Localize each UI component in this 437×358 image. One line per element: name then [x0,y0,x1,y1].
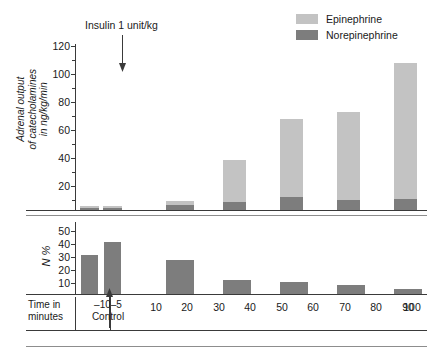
bar-seg-norepinephrine [337,200,360,210]
bar-bottom-minus5 [104,242,121,294]
time-axis-caption: Time in minutes [28,299,74,323]
legend-item-norepinephrine: Norepinephrine [296,28,398,42]
bar-seg-epinephrine [223,160,246,202]
time-axis-table: Time in minutes –10 –5 Control 10 20 30 … [26,297,427,330]
y-tick-label-20: 20 [44,180,70,192]
n-tick-label-30: 30 [44,251,70,263]
y-axis-label-line-2: of catecholamines [26,49,38,169]
y-tick-label-100: 100 [44,68,70,80]
bar-seg-epinephrine [337,112,360,200]
bar-bottom-80 [337,285,365,294]
top-panel-baseline [26,210,427,211]
top-panel-rule-below [26,215,427,216]
bar-seg-epinephrine [394,63,417,199]
x-tick-label-10: 10 [143,301,169,313]
bar-bottom-20 [166,260,194,294]
bar-top-100 [394,63,417,210]
x-tick-label-20: 20 [174,301,200,313]
bar-top-40 [223,160,246,210]
bar-top-60 [280,119,303,210]
n-tick-label-50: 50 [44,225,70,237]
y-tick-label-40: 40 [44,152,70,164]
bottom-panel-baseline [26,294,427,295]
bar-seg-epinephrine [166,201,194,205]
bar-seg-norepinephrine [103,208,122,210]
figure-bottom-rule [26,346,427,347]
bar-seg-norepinephrine [166,205,194,210]
legend-swatch-epinephrine [296,14,318,24]
x-tick-label-70: 70 [332,301,358,313]
bar-seg-epinephrine [280,119,303,197]
insulin-annotation-label: Insulin 1 unit/kg [85,19,158,31]
x-tick-label-minus5: –5 [111,299,122,311]
chart-legend: Epinephrine Norepinephrine [296,12,398,44]
bar-seg-epinephrine [103,206,122,208]
catecholamine-figure: Epinephrine Norepinephrine Insulin 1 uni… [0,0,437,358]
n-tick-label-20: 20 [44,264,70,276]
control-tick-labels: –10 –5 [83,299,133,311]
y-axis-label-line-1: Adrenal output [15,49,27,169]
top-panel-plot-area [75,44,427,210]
x-tick-label-80: 80 [363,301,389,313]
bar-seg-epinephrine [80,206,99,208]
bar-bottom-100 [394,289,422,294]
bar-seg-norepinephrine [280,197,303,210]
time-table-bottom-line [26,330,427,331]
x-tick-label-100: 100 [399,301,425,313]
y-tick-label-80: 80 [44,96,70,108]
y-tick-label-60: 60 [44,124,70,136]
time-caption-line-1: Time in [28,299,74,311]
control-period-cell: –10 –5 Control [83,299,133,323]
bar-seg-norepinephrine [223,202,246,210]
legend-item-epinephrine: Epinephrine [296,12,398,26]
n-tick-label-10: 10 [44,277,70,289]
control-label: Control [83,311,133,323]
x-tick-label-minus10: –10 [94,299,111,311]
bar-bottom-minus10 [81,255,98,294]
bar-top-20 [166,201,194,210]
legend-label-epinephrine: Epinephrine [326,14,382,25]
x-tick-label-30: 30 [206,301,232,313]
legend-label-norepinephrine: Norepinephrine [326,30,398,41]
bar-top-minus5 [103,206,122,210]
time-table-divider-control [110,297,111,330]
time-table-divider-left [75,297,76,330]
bar-top-80 [337,112,360,210]
time-caption-line-2: minutes [28,311,74,323]
x-tick-label-40: 40 [237,301,263,313]
bar-bottom-60 [280,282,308,294]
n-tick-label-40: 40 [44,238,70,250]
bottom-panel-plot-area [75,226,427,294]
bar-seg-norepinephrine [394,199,417,210]
legend-swatch-norepinephrine [296,30,318,40]
bar-seg-norepinephrine [80,208,99,210]
bar-top-minus10 [80,206,99,210]
x-tick-label-60: 60 [300,301,326,313]
bar-bottom-40 [223,280,251,294]
x-tick-label-50: 50 [269,301,295,313]
y-tick-label-120: 120 [44,40,70,52]
